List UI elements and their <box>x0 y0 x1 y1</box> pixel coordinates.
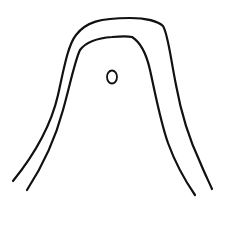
arch-sketch <box>0 0 225 241</box>
small-circle <box>107 71 117 84</box>
drawing-canvas <box>0 0 225 241</box>
